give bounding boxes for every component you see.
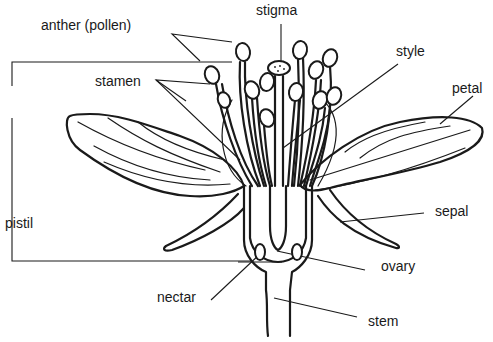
label-petal: petal: [452, 80, 482, 96]
label-pistil: pistil: [5, 215, 33, 231]
left-sepal: [164, 194, 244, 251]
ovary-body: [244, 186, 312, 336]
stem-leader: [274, 298, 357, 317]
anther-leaders: [172, 34, 232, 61]
left-nectary: [255, 244, 265, 260]
label-ovary: ovary: [381, 258, 415, 274]
label-stamen: stamen: [95, 73, 141, 89]
stigma-tip: [268, 61, 290, 75]
sepal-leader: [340, 213, 424, 222]
label-style: style: [396, 43, 425, 59]
label-stigma: stigma: [256, 2, 297, 18]
flower-diagram: anther (pollen) stigma stamen style peta…: [0, 0, 493, 342]
stamen-leaders: [156, 80, 240, 160]
style-column: [275, 76, 283, 186]
label-nectar: nectar: [157, 289, 196, 305]
label-sepal: sepal: [435, 203, 468, 219]
label-stem: stem: [368, 313, 398, 329]
right-nectary: [292, 244, 302, 260]
left-petal: [67, 114, 244, 196]
right-sepal: [318, 190, 399, 248]
label-anther: anther (pollen): [41, 17, 131, 33]
